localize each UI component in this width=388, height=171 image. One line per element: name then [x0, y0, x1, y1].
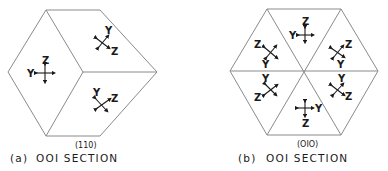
z-label: Z: [302, 16, 309, 27]
z-label: Z: [254, 39, 261, 50]
y-label: Y: [288, 30, 297, 41]
z-label: Z: [345, 91, 352, 102]
z-label: Z: [254, 92, 261, 103]
axis-cross-left: Z Y: [26, 55, 54, 82]
axis-cross-top: Z Y: [288, 16, 313, 42]
axis-cross-upper-right: Z Y: [331, 39, 352, 70]
miller-index-label-b: (OIO): [297, 140, 318, 149]
z-label: Z: [302, 118, 309, 129]
crystal-section-diagram: Z Y Y Z Y Z (110) (a) OOI SECTION: [0, 0, 388, 171]
z-label: Z: [111, 93, 118, 104]
y-label: Y: [314, 103, 323, 114]
axis-cross-upper-left: Z Y: [254, 39, 277, 70]
z-label: Z: [345, 39, 352, 50]
y-label: Y: [336, 59, 345, 70]
panel-b: Z Y Z Y Z Y Y Z Y Z: [230, 9, 378, 164]
z-label: Z: [111, 46, 118, 57]
axis-cross-lower-left: Y Z: [254, 73, 277, 103]
miller-index-label-a: (110): [75, 141, 97, 150]
caption-b: OOI SECTION: [266, 152, 348, 164]
axis-cross-upper-right: Y Z: [96, 25, 118, 57]
z-label: Z: [42, 55, 49, 66]
y-label: Y: [26, 68, 35, 79]
caption-prefix-a: (a): [10, 152, 28, 164]
panel-a: Z Y Y Z Y Z (110) (a) OOI SECTION: [8, 10, 157, 164]
y-label: Y: [337, 73, 346, 84]
axis-cross-lower-right: Y Z: [331, 73, 352, 102]
y-label: Y: [92, 87, 101, 98]
axis-cross-lower-right: Y Z: [92, 87, 118, 111]
caption-prefix-b: (b): [238, 152, 256, 164]
y-label: Y: [261, 59, 270, 70]
y-label: Y: [104, 25, 113, 36]
axis-cross-bottom: Y Z: [297, 101, 323, 129]
caption-a: OOI SECTION: [36, 152, 118, 164]
y-label: Y: [261, 73, 270, 84]
